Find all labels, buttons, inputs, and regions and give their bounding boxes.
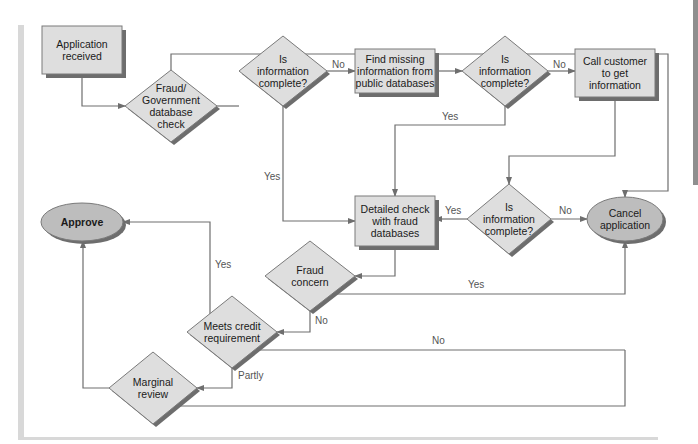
- node-label: to get: [602, 67, 628, 79]
- edge-label: Yes: [264, 171, 280, 182]
- node-info-complete-3: Isinformationcomplete?: [467, 184, 554, 257]
- connector-fraudconcern-to-meets-no: [277, 311, 310, 332]
- node-label: application: [600, 219, 650, 231]
- node-label: Find missing: [366, 53, 425, 65]
- node-label: Marginal: [133, 376, 173, 388]
- node-info-complete-2: Isinformationcomplete?: [462, 36, 551, 109]
- bottom-margin-rule: [18, 437, 658, 440]
- edge-label: Yes: [442, 111, 458, 122]
- edge-label: No: [315, 315, 328, 326]
- node-label: databases: [371, 227, 419, 239]
- node-detailed-check: Detailed checkwith frauddatabases: [355, 196, 439, 250]
- connector-app-to-fraudgov: [82, 74, 125, 106]
- edge-label: No: [553, 59, 566, 70]
- connector-info1-to-detailed-yes: [283, 106, 355, 221]
- node-label: Fraud/: [156, 82, 186, 94]
- left-margin-rule: [18, 25, 24, 437]
- connector-meets-to-marginal-partly: [197, 368, 232, 388]
- edge-label: No: [332, 59, 345, 70]
- node-label: requirement: [204, 332, 260, 344]
- credit-application-flowchart: ApplicationreceivedFraud/Governmentdatab…: [0, 0, 698, 444]
- edge-label: Yes: [215, 259, 231, 270]
- node-layer: ApplicationreceivedFraud/Governmentdatab…: [41, 26, 666, 427]
- node-label: with fraud: [371, 215, 418, 227]
- node-label: public databases: [356, 77, 435, 89]
- node-label: Detailed check: [361, 203, 431, 215]
- edge-label: Yes: [468, 279, 484, 290]
- connector-detailed-to-fraudconcern: [355, 246, 395, 276]
- node-label: Fraud: [296, 264, 324, 276]
- node-cancel-application: Cancelapplication: [587, 197, 666, 244]
- node-label: Is: [279, 53, 287, 65]
- node-label: complete?: [485, 225, 534, 237]
- node-label: complete?: [481, 77, 530, 89]
- node-label: concern: [291, 276, 329, 288]
- connector-meets-to-approve-yes: [123, 222, 210, 314]
- node-fraud-gov-check: Fraud/Governmentdatabasecheck: [125, 70, 220, 145]
- edge-label: Yes: [445, 205, 461, 216]
- node-label: Is: [505, 201, 513, 213]
- node-label: information: [257, 65, 309, 77]
- node-find-missing: Find missinginformation frompublic datab…: [355, 49, 439, 97]
- node-label: Cancel: [609, 207, 642, 219]
- flowchart-canvas: ApplicationreceivedFraud/Governmentdatab…: [0, 0, 698, 444]
- node-label: information from: [357, 65, 433, 77]
- node-approve: Approve: [41, 203, 126, 244]
- node-label: Call customer: [583, 55, 648, 67]
- node-label: Approve: [61, 216, 104, 228]
- node-label: review: [138, 388, 169, 400]
- node-label: check: [157, 118, 185, 130]
- node-label: Government: [142, 94, 200, 106]
- node-info-complete-1: Isinformationcomplete?: [239, 36, 330, 109]
- connector-marginal-to-approve: [83, 241, 109, 388]
- node-label: information: [479, 65, 531, 77]
- node-fraud-concern: Fraudconcern: [265, 241, 358, 314]
- connector-call-to-info3: [509, 97, 615, 184]
- edge-label: Partly: [238, 370, 264, 381]
- node-label: Meets credit: [203, 320, 260, 332]
- node-label: database: [149, 106, 192, 118]
- node-app-received: Applicationreceived: [42, 26, 126, 78]
- node-call-customer: Call customerto getinformation: [575, 49, 659, 101]
- node-label: complete?: [259, 77, 308, 89]
- page-edge-tab: [693, 0, 698, 185]
- node-label: Application: [56, 38, 108, 50]
- node-label: received: [62, 50, 102, 62]
- edge-label: No: [432, 335, 445, 346]
- node-meets-credit: Meets creditrequirement: [187, 296, 280, 371]
- node-label: information: [589, 79, 641, 91]
- edge-label: No: [559, 205, 572, 216]
- node-marginal-review: Marginalreview: [109, 352, 200, 427]
- node-label: information: [483, 213, 535, 225]
- node-label: Is: [501, 53, 509, 65]
